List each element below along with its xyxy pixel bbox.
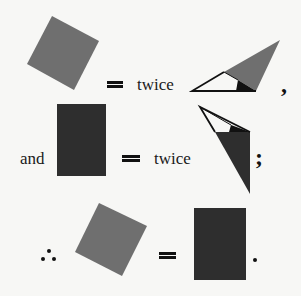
- twice-label-row1: twice: [137, 76, 174, 93]
- comma-row1: ,: [281, 72, 287, 96]
- semicolon-row2: ;: [255, 145, 263, 169]
- grey-square-row3: [75, 203, 147, 276]
- period-row3: [253, 258, 257, 262]
- and-label: and: [20, 150, 45, 167]
- euclid-proof-figure: twice , and twice ;: [0, 0, 301, 296]
- triangle-row2: [200, 107, 250, 194]
- equals-sign-row2: [122, 155, 140, 162]
- dark-rectangle-row3: [194, 208, 246, 280]
- equals-sign-row3: [159, 252, 176, 259]
- therefore-icon: [41, 248, 57, 262]
- equals-sign-row1: [107, 81, 123, 88]
- dark-rectangle-row2: [57, 104, 106, 176]
- grey-square-row1: [27, 16, 99, 90]
- triangle-row1: [192, 40, 280, 91]
- twice-label-row2: twice: [154, 150, 191, 167]
